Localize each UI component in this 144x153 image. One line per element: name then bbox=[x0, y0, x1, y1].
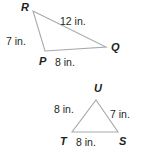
vertex-label-r: R bbox=[21, 2, 29, 13]
vertex-label-u: U bbox=[94, 83, 102, 94]
side-label-pq: 8 in. bbox=[55, 57, 75, 68]
geometry-figure: R 12 in. 7 in. Q P 8 in. U 8 in. 7 in. T… bbox=[0, 0, 144, 153]
vertex-label-p: P bbox=[39, 56, 46, 67]
side-label-tu: 8 in. bbox=[54, 104, 74, 115]
vertex-label-t: T bbox=[60, 136, 67, 147]
side-label-rq: 12 in. bbox=[60, 16, 86, 27]
side-label-rp: 7 in. bbox=[6, 36, 26, 47]
side-label-ts: 8 in. bbox=[76, 137, 96, 148]
vertex-label-s: S bbox=[119, 136, 126, 147]
vertex-label-q: Q bbox=[111, 42, 120, 53]
side-label-us: 7 in. bbox=[110, 109, 130, 120]
